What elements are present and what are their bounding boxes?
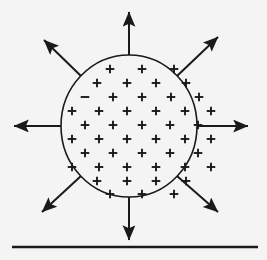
charged-sphere-outline xyxy=(61,55,197,197)
figure-container xyxy=(0,0,267,260)
charged-sphere-field-diagram xyxy=(0,0,267,260)
